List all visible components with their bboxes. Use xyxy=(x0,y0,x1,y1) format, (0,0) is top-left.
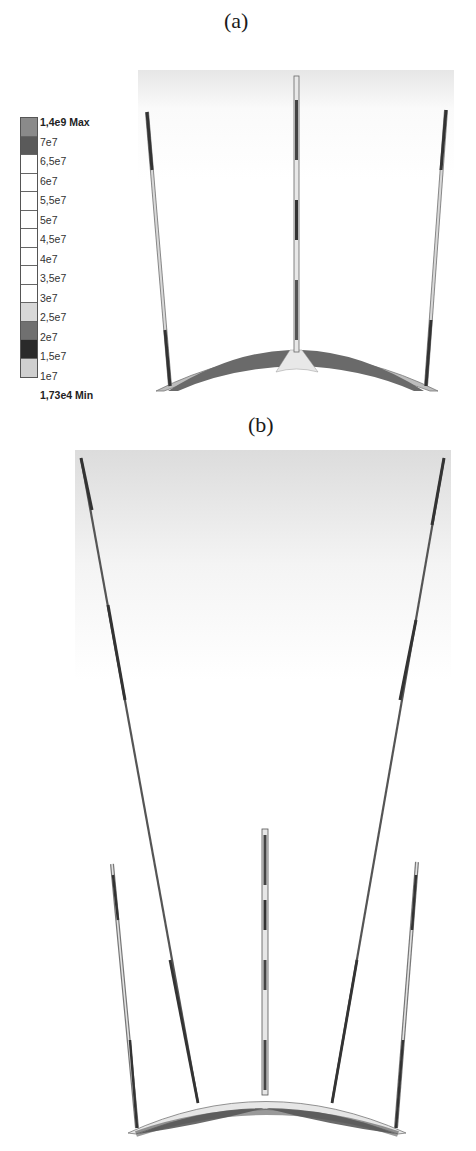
panel-b-model xyxy=(75,450,451,1134)
fea-model-drawing xyxy=(0,0,476,1151)
panel-a-model xyxy=(138,70,454,391)
